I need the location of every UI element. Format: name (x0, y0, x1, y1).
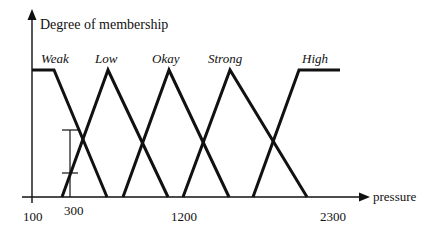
tick-1200: 1200 (171, 209, 197, 224)
label-high: High (301, 51, 328, 66)
x-axis: pressure (22, 189, 417, 204)
curve-strong (183, 70, 307, 197)
set-labels: Weak Low Okay Strong High (41, 51, 328, 66)
x-axis-label: pressure (373, 189, 417, 204)
label-weak: Weak (41, 51, 69, 66)
membership-curves (32, 70, 340, 197)
label-low: Low (94, 51, 118, 66)
y-axis-label: Degree of membership (40, 17, 168, 32)
label-strong: Strong (208, 51, 243, 66)
fuzzy-membership-diagram: Degree of membership pressure Weak Low O… (0, 0, 436, 237)
tick-2300: 2300 (320, 209, 346, 224)
tick-300: 300 (64, 203, 84, 218)
tick-labels: 100 300 1200 2300 (23, 203, 346, 224)
x-axis-arrow-icon (359, 193, 370, 202)
curve-low (62, 70, 168, 197)
tick-100: 100 (23, 209, 43, 224)
y-axis-arrow-icon (28, 9, 37, 20)
label-okay: Okay (152, 51, 180, 66)
